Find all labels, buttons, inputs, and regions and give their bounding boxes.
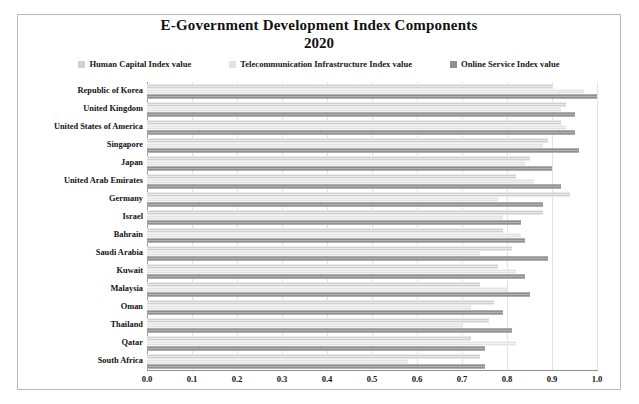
bar-germany-s2: [147, 202, 543, 207]
bar-thailand-s2: [147, 328, 512, 333]
bar-group: [147, 208, 597, 226]
y-label-thailand: Thailand: [110, 320, 143, 329]
bar-group: [147, 136, 597, 154]
y-label-singapore: Singapore: [107, 140, 143, 149]
legend-label-online-service: Online Service Index value: [461, 59, 560, 69]
gridline-1.0: [597, 82, 598, 370]
bar-group: [147, 262, 597, 280]
bar-united-states-of-america-s2: [147, 130, 575, 135]
bar-united-arab-emirates-s2: [147, 184, 561, 189]
bar-group: [147, 82, 597, 100]
x-axis-tick-labels: 0.00.10.20.30.40.50.60.70.80.91.0: [0, 374, 639, 388]
y-label-south-africa: South Africa: [98, 356, 143, 365]
legend-item-online-service: Online Service Index value: [450, 59, 560, 69]
bar-group: [147, 280, 597, 298]
x-tick-0.0: 0.0: [127, 374, 167, 384]
bar-bahrain-s2: [147, 238, 525, 243]
bar-oman-s2: [147, 310, 503, 315]
bar-united-kingdom-s2: [147, 112, 575, 117]
bar-malaysia-s2: [147, 292, 530, 297]
x-tick-0.5: 0.5: [352, 374, 392, 384]
y-label-united-kingdom: United Kingdom: [83, 104, 143, 113]
x-tick-0.1: 0.1: [172, 374, 212, 384]
bar-group: [147, 154, 597, 172]
legend-item-human-capital: Human Capital Index value: [78, 59, 191, 69]
x-tick-0.2: 0.2: [217, 374, 257, 384]
bar-group: [147, 226, 597, 244]
chart-legend: Human Capital Index value Telecommunicat…: [17, 57, 621, 71]
legend-label-telecom: Telecommunication Infrastructure Index v…: [240, 59, 412, 69]
bar-group: [147, 172, 597, 190]
legend-swatch-telecom: [229, 61, 236, 68]
bar-israel-s2: [147, 220, 521, 225]
bar-group: [147, 190, 597, 208]
y-label-oman: Oman: [121, 302, 143, 311]
y-label-kuwait: Kuwait: [116, 266, 143, 275]
bar-group: [147, 118, 597, 136]
y-label-israel: Israel: [123, 212, 143, 221]
legend-swatch-online-service: [450, 61, 457, 68]
bar-group: [147, 244, 597, 262]
bar-saudi-arabia-s2: [147, 256, 548, 261]
x-tick-0.6: 0.6: [397, 374, 437, 384]
chart-title: E-Government Development Index Component…: [17, 16, 621, 35]
plot-area: [147, 82, 597, 370]
x-tick-1.0: 1.0: [577, 374, 617, 384]
legend-swatch-human-capital: [78, 61, 85, 68]
bar-qatar-s2: [147, 346, 485, 351]
bar-republic-of-korea-s2: [147, 94, 597, 99]
bar-kuwait-s2: [147, 274, 525, 279]
y-label-republic-of-korea: Republic of Korea: [78, 86, 143, 95]
bar-japan-s2: [147, 166, 552, 171]
y-label-bahrain: Bahrain: [114, 230, 143, 239]
bar-group: [147, 334, 597, 352]
x-tick-0.8: 0.8: [487, 374, 527, 384]
y-label-qatar: Qatar: [122, 338, 143, 347]
y-label-malaysia: Malaysia: [110, 284, 143, 293]
y-label-saudi-arabia: Saudi Arabia: [96, 248, 143, 257]
bar-group: [147, 352, 597, 370]
bar-group: [147, 298, 597, 316]
x-axis-line: [147, 370, 598, 371]
bar-south-africa-s2: [147, 364, 485, 369]
y-label-japan: Japan: [121, 158, 143, 167]
legend-item-telecom: Telecommunication Infrastructure Index v…: [229, 59, 412, 69]
legend-label-human-capital: Human Capital Index value: [89, 59, 191, 69]
y-axis-category-labels: Republic of KoreaUnited KingdomUnited St…: [0, 82, 143, 370]
bar-group: [147, 100, 597, 118]
x-tick-0.3: 0.3: [262, 374, 302, 384]
y-label-germany: Germany: [109, 194, 143, 203]
x-tick-0.4: 0.4: [307, 374, 347, 384]
chart-subtitle: 2020: [17, 35, 621, 52]
bar-group: [147, 316, 597, 334]
x-tick-0.9: 0.9: [532, 374, 572, 384]
x-tick-0.7: 0.7: [442, 374, 482, 384]
y-label-united-states-of-america: United States of America: [54, 122, 143, 131]
y-label-united-arab-emirates: United Arab Emirates: [64, 176, 143, 185]
bar-singapore-s2: [147, 148, 579, 153]
